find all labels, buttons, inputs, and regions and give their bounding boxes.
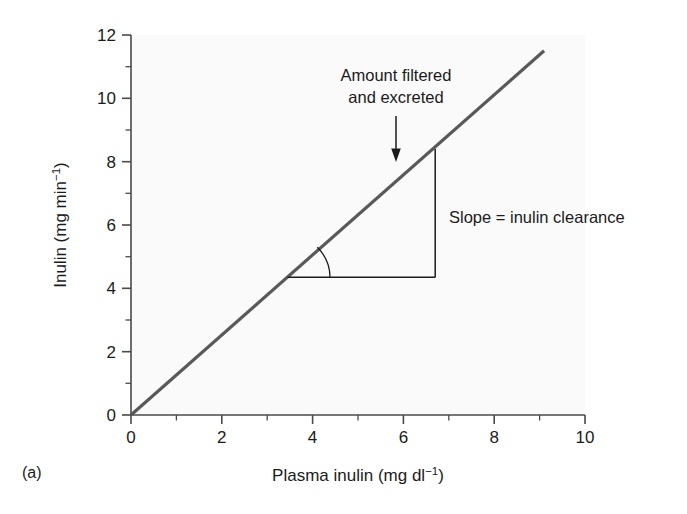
y-major-ticks (122, 35, 131, 415)
x-axis-title-sup: −1 (425, 465, 438, 477)
x-axis-title: Plasma inulin (mg dl−1) (272, 465, 444, 485)
x-tick-label-4: 4 (308, 428, 317, 447)
x-axis-title-tail: ) (438, 466, 444, 485)
y-axis: 0 2 4 6 8 10 12 (97, 26, 131, 425)
annotation-slope-label: Slope = inulin clearance (449, 208, 625, 226)
x-axis-title-text: Plasma inulin (mg dl (272, 466, 425, 485)
y-axis-title-tail: ) (51, 162, 70, 168)
x-tick-label-0: 0 (126, 428, 135, 447)
y-axis-title-sup: −1 (50, 168, 62, 181)
x-axis: 0 2 4 6 8 10 (126, 415, 594, 447)
y-tick-label-4: 4 (107, 279, 116, 298)
figure-panel-a: 0 2 4 6 8 10 12 (0, 0, 687, 514)
y-axis-title: Inulin (mg min−1) (50, 162, 70, 288)
inulin-clearance-chart: 0 2 4 6 8 10 12 (0, 0, 687, 514)
x-tick-label-6: 6 (399, 428, 408, 447)
annotation-amount-filtered-line2: and excreted (348, 88, 443, 106)
x-tick-label-10: 10 (576, 428, 595, 447)
y-tick-label-2: 2 (107, 343, 116, 362)
y-tick-label-0: 0 (107, 406, 116, 425)
y-tick-label-12: 12 (97, 26, 116, 45)
y-tick-label-10: 10 (97, 89, 116, 108)
y-tick-label-6: 6 (107, 216, 116, 235)
y-tick-label-8: 8 (107, 153, 116, 172)
svg-text:Inulin (mg min−1): Inulin (mg min−1) (50, 162, 70, 288)
svg-text:Plasma inulin (mg dl−1): Plasma inulin (mg dl−1) (272, 465, 444, 485)
annotation-amount-filtered-line1: Amount filtered (341, 66, 452, 84)
x-minor-ticks (176, 415, 539, 421)
y-axis-title-text: Inulin (mg min (51, 181, 70, 288)
x-tick-label-2: 2 (217, 428, 226, 447)
x-tick-label-8: 8 (489, 428, 498, 447)
panel-label: (a) (22, 464, 42, 481)
